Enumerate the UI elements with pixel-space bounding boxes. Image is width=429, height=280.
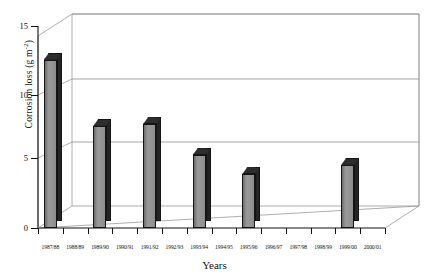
bar-column [341,158,354,228]
bar-column [193,149,206,228]
x-tick-label: 1996/97 [265,244,283,250]
bar-front-face [242,174,255,228]
x-tick-label: 1994/95 [215,244,233,250]
bar-side-face [255,167,260,221]
x-tick-label: 1993/94 [190,244,208,250]
y-tick-mark-0 [31,228,38,229]
x-tick-label: 1991/92 [141,244,159,250]
chart-frame [0,0,429,280]
x-tick-label: 1989/90 [91,244,109,250]
x-tick-mark [360,228,361,234]
bar-column [143,118,156,228]
x-tick-mark [187,228,188,234]
bar-column [93,119,106,228]
x-tick-mark [162,228,163,234]
x-tick-mark [137,228,138,234]
bar-front-face [44,60,57,228]
bar-side-face [156,117,161,221]
bar-side-face [57,53,62,221]
x-axis-title: Years [0,259,429,271]
x-tick-mark [112,228,113,234]
bar-front-face [143,124,156,228]
y-tick-mark-10 [31,95,38,96]
x-tick-label: 1987/88 [42,244,60,250]
x-tick-label: 1998/99 [314,244,332,250]
y-tick-label-10: 10 [10,90,28,100]
x-tick-mark [38,228,39,234]
x-tick-label: 1997/98 [289,244,307,250]
y-tick-mark-5 [31,158,38,159]
x-tick-mark [311,228,312,234]
x-tick-mark [286,228,287,234]
x-tick-mark [212,228,213,234]
bar-side-face [106,119,111,221]
bar-front-face [93,126,106,228]
y-tick-mark-15 [31,26,38,27]
chart-container: Corrosion loss (g m-2) 15 10 5 0 1987/88… [0,0,429,280]
x-tick-label: 1995/96 [240,244,258,250]
x-tick-mark [385,228,386,234]
bar-column [242,168,255,228]
x-tick-mark [63,228,64,234]
x-tick-label: 1999/00 [339,244,357,250]
x-tick-mark [335,228,336,234]
x-tick-mark [236,228,237,234]
bar-front-face [193,155,206,228]
x-tick-label: 1990/91 [116,244,134,250]
bar-front-face [341,165,354,228]
x-axis-labels: 1987/881988/891989/901990/911991/921992/… [0,244,429,256]
y-tick-label-15: 15 [10,21,28,31]
bar-side-face [206,148,211,221]
bar-side-face [354,158,359,221]
x-tick-mark [261,228,262,234]
x-tick-mark [88,228,89,234]
x-tick-label: 2000/01 [364,244,382,250]
y-tick-label-5: 5 [10,153,28,163]
x-tick-label: 1988/89 [66,244,84,250]
x-tick-label: 1992/93 [165,244,183,250]
y-tick-label-0: 0 [10,223,28,233]
bar-column [44,53,57,228]
